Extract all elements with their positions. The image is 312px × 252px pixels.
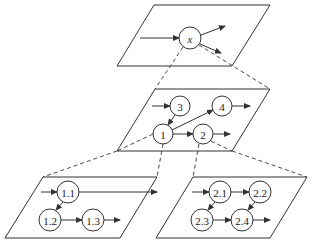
refinement-link-middle-to-bottom-right (232, 151, 307, 177)
node-x: x (179, 27, 201, 49)
node-n3: 3 (170, 96, 190, 116)
node-label: 2.2 (253, 187, 267, 199)
node-label: 3 (177, 101, 183, 113)
node-label: 1.2 (43, 215, 57, 227)
hierarchical-graph-diagram: x12341.11.21.32.12.22.32.4 (0, 0, 312, 252)
node-label: 1 (160, 129, 166, 141)
node-n24: 2.4 (231, 209, 253, 231)
node-n12: 1.2 (39, 209, 61, 231)
node-n1: 1 (153, 124, 173, 144)
node-n11: 1.1 (57, 181, 79, 203)
node-n4: 4 (212, 96, 232, 116)
node-label: 1.1 (61, 187, 75, 199)
node-n21: 2.1 (209, 181, 231, 203)
node-label: 2 (200, 129, 206, 141)
node-n13: 1.3 (82, 209, 104, 231)
node-label: x (187, 33, 193, 45)
plane-bottom-right (156, 177, 307, 238)
refinement-link-middle-to-bottom-left (43, 151, 117, 177)
node-label: 2.3 (195, 215, 209, 227)
node-n23: 2.3 (191, 209, 213, 231)
node-n22: 2.2 (249, 181, 271, 203)
plane-bottom-left (5, 177, 157, 238)
node-label: 2.4 (235, 215, 249, 227)
node-label: 1.3 (86, 215, 100, 227)
diagram-canvas: x12341.11.21.32.12.22.32.4 (0, 0, 312, 252)
node-label: 2.1 (213, 187, 227, 199)
node-label: 4 (219, 101, 225, 113)
node-n2: 2 (193, 124, 213, 144)
